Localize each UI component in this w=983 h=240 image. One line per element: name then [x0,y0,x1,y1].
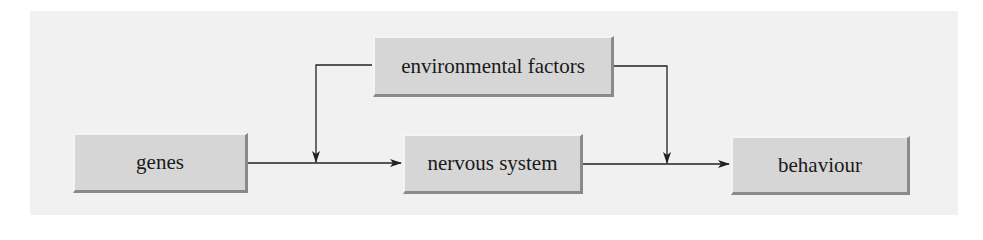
node-label: behaviour [778,153,862,178]
arrow-env-to-genes-link [316,65,372,162]
node-nervous-system: nervous system [403,134,583,194]
arrow-env-to-behaviour-link [614,66,667,163]
node-label: nervous system [427,151,557,176]
node-genes: genes [73,133,248,193]
node-label: genes [136,150,184,175]
node-behaviour: behaviour [731,136,910,195]
node-environmental-factors: environmental factors [373,36,614,97]
node-label: environmental factors [401,54,585,79]
